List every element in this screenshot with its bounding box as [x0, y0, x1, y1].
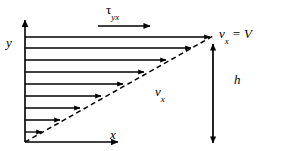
velocity-arrow-group: [25, 37, 210, 132]
shear-stress-label: τyx: [106, 3, 119, 19]
profile-vx-symbol: v: [155, 84, 161, 99]
velocity-profile-label: vx: [155, 85, 165, 101]
couette-flow-figure: y x τyx vx = V vx h: [0, 0, 281, 151]
tau-subscript: yx: [111, 12, 119, 22]
vx-subscript: x: [225, 36, 229, 46]
gap-height-label: h: [234, 73, 241, 86]
x-axis-label: x: [110, 128, 116, 141]
vx-equals-V: = V: [229, 26, 252, 41]
top-plate-velocity-label: vx = V: [219, 27, 252, 43]
vx-symbol: v: [219, 26, 225, 41]
velocity-profile-dashed-line: [25, 36, 213, 142]
profile-vx-subscript: x: [161, 94, 165, 104]
y-axis-label: y: [6, 36, 12, 49]
